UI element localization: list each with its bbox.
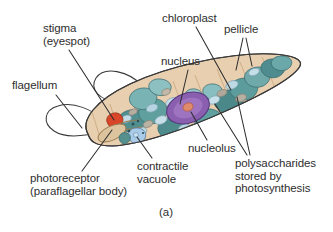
cell-body [86, 54, 301, 150]
figure-caption: (a) [159, 206, 173, 219]
label-stigma: stigma (eyespot) [43, 22, 90, 47]
leader-polysaccharide-b [237, 97, 250, 155]
label-pellicle: pellicle [224, 23, 258, 36]
label-contractile-vacuole: contractile vacuole [137, 160, 188, 185]
label-chloroplast: chloroplast [162, 12, 217, 25]
label-nucleolus: nucleolus [188, 142, 236, 155]
label-polysaccharides: polysaccharides stored by photosynthesis [235, 157, 316, 195]
leader-stigma [69, 50, 114, 120]
figure-canvas: stigma (eyespot) flagellum photoreceptor… [0, 0, 333, 232]
label-nucleus: nucleus [161, 55, 200, 68]
label-flagellum: flagellum [12, 79, 57, 92]
leader-flagellum [56, 95, 82, 128]
label-photoreceptor: photoreceptor (paraflagellar body) [30, 172, 127, 197]
